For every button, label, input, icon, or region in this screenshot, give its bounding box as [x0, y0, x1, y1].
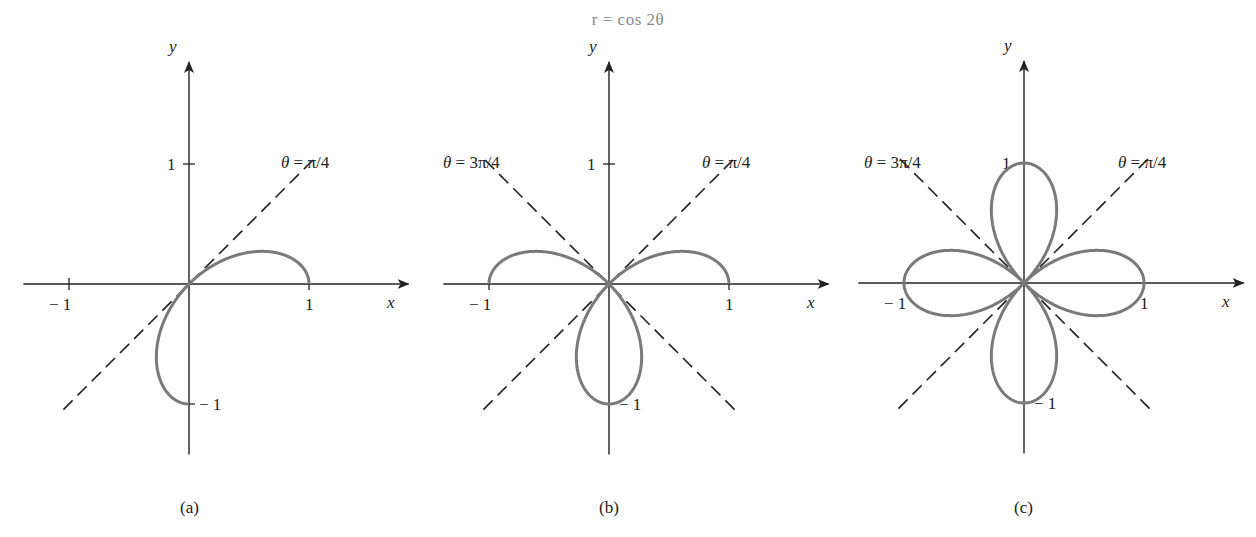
- y-axis-label: y: [587, 37, 597, 56]
- reference-line-label: θ = π/4: [702, 153, 751, 172]
- y-axis-label: y: [1002, 36, 1012, 55]
- reference-line-label: θ = 3π/4: [443, 153, 500, 172]
- caption-a: (a): [180, 498, 199, 518]
- y-tick-label-pos: 1: [167, 155, 176, 174]
- x-tick-label-pos: 1: [725, 295, 734, 314]
- x-axis-label: x: [1221, 292, 1230, 311]
- caption-c: (c): [1014, 498, 1033, 518]
- x-axis-label: x: [386, 293, 395, 312]
- reference-line-label: θ = 3π/4: [864, 153, 921, 172]
- panel-b: θ = π/4θ = 3π/41− 11− 1xy: [443, 37, 829, 454]
- y-axis-label: y: [167, 37, 177, 56]
- panel-c: θ = π/4θ = 3π/41− 11− 1xy: [858, 36, 1243, 453]
- reference-line-label: θ = π/4: [281, 153, 330, 172]
- polar-curve: [156, 251, 309, 404]
- caption-b: (b): [599, 498, 619, 518]
- y-tick-label-neg: − 1: [619, 395, 641, 414]
- panel-a: θ = π/41− 11− 1xy: [23, 37, 408, 454]
- x-tick-label-neg: − 1: [884, 294, 906, 313]
- x-tick-label-pos: 1: [305, 295, 314, 314]
- y-tick-label-neg: − 1: [199, 395, 221, 414]
- x-tick-label-neg: − 1: [469, 295, 491, 314]
- reference-line-label: θ = π/4: [1118, 153, 1167, 172]
- x-tick-label-neg: − 1: [49, 295, 71, 314]
- y-tick-label-neg: − 1: [1034, 394, 1056, 413]
- y-tick-label-pos: 1: [587, 155, 596, 174]
- polar-rose-figure: r = cos 2θ θ = π/41− 11− 1xyθ = π/4θ = 3…: [0, 0, 1256, 537]
- x-axis-label: x: [806, 293, 815, 312]
- plot-canvas: θ = π/41− 11− 1xyθ = π/4θ = 3π/41− 11− 1…: [0, 0, 1256, 537]
